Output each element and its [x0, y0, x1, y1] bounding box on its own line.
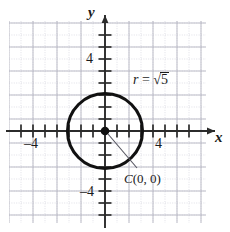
radius-annotation-equals: = [142, 72, 150, 87]
x-tick-label-neg4: –4 [24, 137, 38, 151]
figure-container: y x –4 4 4 –4 r = √5 C(0, 0) [0, 0, 230, 232]
sqrt-radicand: 5 [160, 72, 169, 87]
y-tick-label-neg4: –4 [80, 185, 94, 199]
sqrt-expression: √5 [153, 72, 169, 87]
y-axis-label: y [88, 5, 95, 20]
x-tick-label-4: 4 [155, 137, 162, 151]
center-annotation-letter: C [124, 171, 133, 186]
center-annotation: C(0, 0) [124, 172, 161, 185]
coordinate-plane-graphic [0, 0, 230, 232]
radius-annotation: r = √5 [133, 72, 169, 87]
x-axis-label: x [215, 130, 223, 145]
y-tick-label-4: 4 [86, 52, 93, 66]
center-annotation-coords: (0, 0) [133, 171, 161, 186]
